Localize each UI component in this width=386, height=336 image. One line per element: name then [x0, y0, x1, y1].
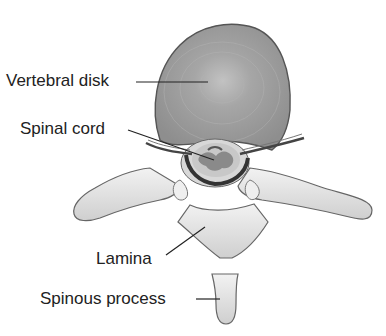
- label-vertebral-disk: Vertebral disk: [6, 72, 109, 89]
- label-spinous-process: Spinous process: [40, 290, 166, 307]
- lamina-shape: [178, 204, 268, 258]
- label-spinal-cord: Spinal cord: [20, 120, 105, 137]
- label-lamina: Lamina: [96, 250, 152, 267]
- vertebral-disk-shape: [155, 24, 290, 150]
- vertebra-diagram: Vertebral disk Spinal cord Lamina Spinou…: [0, 0, 386, 336]
- vertebra-illustration: [0, 0, 386, 336]
